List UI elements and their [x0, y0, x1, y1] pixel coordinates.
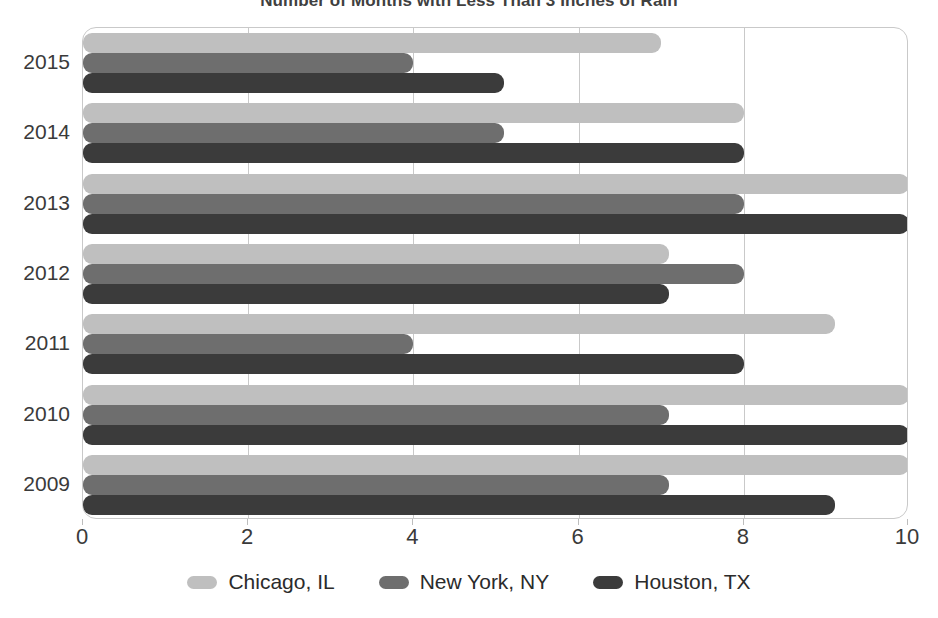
- bar-2015-chicago-il[interactable]: [83, 33, 661, 53]
- bar-2011-houston-tx[interactable]: [83, 354, 744, 374]
- legend-item-houston-tx[interactable]: Houston, TX: [593, 570, 750, 594]
- bar-group-2015: [83, 33, 907, 93]
- x-axis-label-2: 2: [241, 524, 253, 550]
- bar-group-2012: [83, 244, 907, 304]
- x-axis-label-4: 4: [406, 524, 418, 550]
- x-axis-label-10: 10: [895, 524, 919, 550]
- y-axis-label-2012: 2012: [0, 261, 70, 285]
- bar-2014-new-york-ny[interactable]: [83, 123, 504, 143]
- legend-swatch-icon: [379, 576, 409, 589]
- x-axis-labels: 0246810: [82, 524, 908, 554]
- chart-title: Number of Months with Less Than 3 Inches…: [0, 0, 938, 11]
- bar-2014-chicago-il[interactable]: [83, 103, 744, 123]
- bar-2009-houston-tx[interactable]: [83, 495, 835, 515]
- bar-2012-houston-tx[interactable]: [83, 284, 669, 304]
- bar-2013-new-york-ny[interactable]: [83, 194, 744, 214]
- y-axis-label-2011: 2011: [0, 331, 70, 355]
- bar-group-2009: [83, 455, 907, 515]
- legend-swatch-icon: [593, 576, 623, 589]
- y-axis-label-2010: 2010: [0, 402, 70, 426]
- bar-group-2011: [83, 314, 907, 374]
- bar-2011-new-york-ny[interactable]: [83, 334, 413, 354]
- bar-2014-houston-tx[interactable]: [83, 143, 744, 163]
- y-axis-label-2015: 2015: [0, 50, 70, 74]
- legend-label: Houston, TX: [634, 570, 750, 594]
- plot-area: [82, 27, 908, 519]
- bar-2013-houston-tx[interactable]: [83, 214, 908, 234]
- legend-item-chicago-il[interactable]: Chicago, IL: [187, 570, 334, 594]
- chart-legend: Chicago, ILNew York, NYHouston, TX: [0, 570, 938, 594]
- bar-2012-new-york-ny[interactable]: [83, 264, 744, 284]
- legend-label: Chicago, IL: [228, 570, 334, 594]
- bar-groups: [83, 28, 907, 518]
- bar-group-2014: [83, 103, 907, 163]
- bar-2015-houston-tx[interactable]: [83, 73, 504, 93]
- y-axis-label-2014: 2014: [0, 120, 70, 144]
- bar-2015-new-york-ny[interactable]: [83, 53, 413, 73]
- bar-chart: Number of Months with Less Than 3 Inches…: [0, 0, 938, 618]
- bar-2013-chicago-il[interactable]: [83, 174, 908, 194]
- x-axis-label-6: 6: [571, 524, 583, 550]
- y-axis-label-2013: 2013: [0, 191, 70, 215]
- bar-2009-new-york-ny[interactable]: [83, 475, 669, 495]
- bar-2010-new-york-ny[interactable]: [83, 405, 669, 425]
- bar-2012-chicago-il[interactable]: [83, 244, 669, 264]
- bar-2009-chicago-il[interactable]: [83, 455, 908, 475]
- y-axis-label-2009: 2009: [0, 472, 70, 496]
- bar-group-2010: [83, 385, 907, 445]
- y-axis-labels: 2015201420132012201120102009: [0, 27, 70, 519]
- x-axis-label-8: 8: [737, 524, 749, 550]
- legend-swatch-icon: [187, 576, 217, 589]
- legend-item-new-york-ny[interactable]: New York, NY: [379, 570, 550, 594]
- x-axis-label-0: 0: [76, 524, 88, 550]
- bar-2010-houston-tx[interactable]: [83, 425, 908, 445]
- bar-group-2013: [83, 174, 907, 234]
- legend-label: New York, NY: [420, 570, 550, 594]
- bar-2010-chicago-il[interactable]: [83, 385, 908, 405]
- bar-2011-chicago-il[interactable]: [83, 314, 835, 334]
